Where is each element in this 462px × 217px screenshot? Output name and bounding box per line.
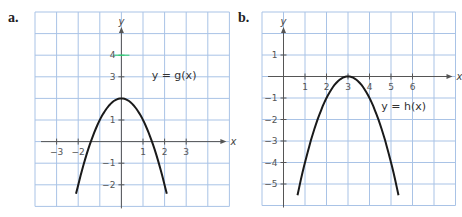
graph-a: xy−3−2123431−1−2y = g(x) — [35, 12, 236, 208]
function-label: y = h(x) — [381, 100, 426, 113]
y-tick-label: −1 — [264, 93, 277, 103]
x-tick-label: 3 — [183, 147, 189, 157]
y-axis-label: y — [117, 16, 125, 27]
x-tick-label: −2 — [72, 147, 85, 157]
y-tick-label: 1 — [110, 115, 116, 125]
y-tick-label: −1 — [102, 158, 115, 168]
function-label: y = g(x) — [152, 69, 197, 82]
graph-b: xy1234561−1−2−3−4−5y = h(x) — [262, 12, 462, 208]
y-tick-label: 3 — [110, 72, 116, 82]
y-tick-label: 1 — [272, 50, 278, 60]
grid — [35, 12, 229, 206]
x-tick-label: 3 — [345, 82, 351, 92]
y-tick-label: −3 — [264, 136, 277, 146]
x-axis-arrow-icon — [447, 74, 453, 79]
grid — [262, 12, 456, 206]
y-tick-label: −2 — [264, 115, 277, 125]
y-tick-label: −4 — [264, 158, 278, 168]
y-tick-label: −5 — [264, 179, 277, 189]
x-axis-label: x — [456, 71, 462, 82]
x-tick-label: 1 — [302, 82, 308, 92]
x-tick-label: 2 — [162, 147, 168, 157]
x-tick-label: 6 — [410, 82, 416, 92]
y-tick-label: −2 — [102, 180, 115, 190]
axes: xy1234561−1−2−3−4−5 — [264, 16, 462, 208]
y-axis-arrow-icon — [119, 27, 124, 33]
x-tick-label: 4 — [367, 82, 373, 92]
x-tick-label: −3 — [50, 147, 63, 157]
x-tick-label: 5 — [388, 82, 394, 92]
y-axis-arrow-icon — [281, 27, 286, 33]
graphs: xy−3−2123431−1−2y = g(x)xy1234561−1−2−3−… — [0, 0, 462, 217]
x-axis-label: x — [229, 136, 236, 147]
x-tick-label: 1 — [140, 147, 146, 157]
x-axis-arrow-icon — [220, 139, 226, 144]
y-axis-label: y — [280, 16, 288, 27]
x-tick-label: 2 — [324, 82, 330, 92]
y-tick-label: 4 — [110, 50, 116, 60]
